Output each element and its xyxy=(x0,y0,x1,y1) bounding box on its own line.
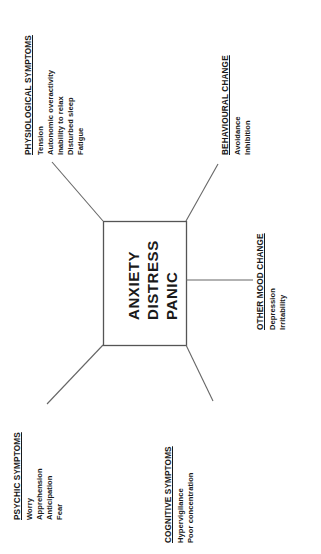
center-line-2: DISTRESS xyxy=(143,240,162,320)
group-heading-behavioural: BEHAVIOURAL CHANGE xyxy=(221,55,232,155)
group-item: Avoidance xyxy=(233,55,243,155)
center-label: ANXIETY DISTRESS PANIC xyxy=(124,240,181,320)
group-heading-psychic: PSYCHIC SYMPTOMS xyxy=(13,432,24,520)
group-item: Worry xyxy=(25,432,35,520)
group-heading-cognitive: COGNITIVE SYMPTOMS xyxy=(164,446,175,543)
group-item: Fear xyxy=(55,432,65,520)
connector-physiological xyxy=(52,162,103,221)
diagram-canvas: ANXIETY DISTRESS PANIC PHYSIOLOGICAL SYM… xyxy=(0,0,321,554)
group-item: Tension xyxy=(36,35,46,155)
group-item: Inability to relax xyxy=(56,35,66,155)
group-other-mood-change: OTHER MOOD CHANGE Depression Irritabilit… xyxy=(256,233,288,330)
group-item: Poor concentration xyxy=(186,446,196,543)
group-item: Irritability xyxy=(278,233,288,330)
group-item: Apprehension xyxy=(35,432,45,520)
center-line-3: PANIC xyxy=(162,240,181,320)
group-item: Hypervigilance xyxy=(176,446,186,543)
group-physiological-symptoms: PHYSIOLOGICAL SYMPTOMS Tension Autonomic… xyxy=(24,35,87,155)
group-item: Depression xyxy=(268,233,278,330)
group-item: Fatigue xyxy=(76,35,86,155)
group-behavioural-change: BEHAVIOURAL CHANGE Avoidance Inhibition xyxy=(221,55,253,155)
connector-cognitive xyxy=(186,345,213,401)
connector-psychic xyxy=(47,345,103,404)
group-heading-physiological: PHYSIOLOGICAL SYMPTOMS xyxy=(24,35,35,155)
connector-behavioural xyxy=(186,164,218,221)
group-item: Autonomic overactivity xyxy=(46,35,56,155)
group-cognitive-symptoms: COGNITIVE SYMPTOMS Hypervigilance Poor c… xyxy=(164,446,196,543)
group-heading-other-mood: OTHER MOOD CHANGE xyxy=(256,233,267,330)
group-item: Disturbed sleep xyxy=(66,35,76,155)
center-line-1: ANXIETY xyxy=(124,240,143,320)
group-psychic-symptoms: PSYCHIC SYMPTOMS Worry Apprehension Anti… xyxy=(13,432,65,520)
group-item: Inhibition xyxy=(243,55,253,155)
group-item: Anticipation xyxy=(45,432,55,520)
